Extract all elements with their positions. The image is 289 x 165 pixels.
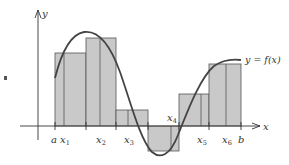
label-a: a	[51, 134, 57, 145]
label-x2: x2	[96, 134, 106, 147]
label-x1: x1	[60, 134, 70, 147]
riemann-rectangles	[55, 38, 241, 151]
curve-label: y = f(x)	[244, 54, 281, 65]
rectangle-3	[116, 110, 148, 126]
rectangle-4	[148, 126, 179, 151]
label-x3: x3	[124, 134, 134, 147]
label-b: b	[238, 134, 244, 145]
label-x6: x6	[222, 134, 232, 147]
label-x5: x5	[197, 134, 207, 147]
x-axis-label: x	[263, 121, 269, 132]
label-x4: x4	[167, 112, 177, 125]
margin-mark	[4, 76, 7, 80]
rectangle-6	[209, 64, 241, 126]
y-axis-label: y	[41, 8, 48, 19]
riemann-sum-diagram: y x y = f(x) a b x1 x2 x3 x4 x5 x6	[0, 0, 289, 165]
